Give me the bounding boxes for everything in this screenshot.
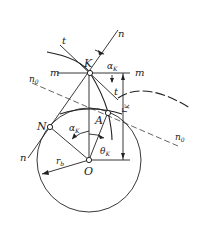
diagram-canvas: n t αK m m K n0 t rK n0 N A αK θK n rb O xyxy=(0,0,203,228)
point-O xyxy=(86,157,91,162)
arrowhead-small xyxy=(110,78,114,83)
arrowhead-rk-bottom xyxy=(121,153,125,159)
label-rb: rb xyxy=(56,156,64,167)
arrowhead-theta xyxy=(98,134,104,139)
label-t-mid: t xyxy=(114,86,119,97)
involute-diagram: n t αK m m K n0 t rK n0 N A αK θK n rb O xyxy=(0,0,203,228)
normal-line-n xyxy=(28,30,118,158)
arrowhead-rk-top xyxy=(121,74,125,80)
label-n0-right: n0 xyxy=(175,132,185,143)
label-alpha-top: αK xyxy=(107,61,118,72)
point-A xyxy=(105,110,110,115)
label-n0-left: n0 xyxy=(29,74,39,85)
label-n-top: n xyxy=(118,28,124,39)
label-m-left: m xyxy=(50,67,59,78)
label-K: K xyxy=(83,57,93,70)
label-O: O xyxy=(84,165,93,178)
label-N: N xyxy=(36,120,47,133)
arrowhead-rb xyxy=(42,170,49,175)
label-t-top: t xyxy=(62,35,67,46)
rb-line xyxy=(42,160,89,174)
label-n-bottom: n xyxy=(20,152,26,163)
label-A: A xyxy=(94,114,103,127)
label-alpha-mid: αK xyxy=(69,123,80,134)
label-m-right: m xyxy=(135,67,144,78)
point-N xyxy=(47,124,52,129)
label-rK: rK xyxy=(119,104,130,113)
point-K xyxy=(87,70,92,75)
label-theta: θK xyxy=(100,146,110,157)
